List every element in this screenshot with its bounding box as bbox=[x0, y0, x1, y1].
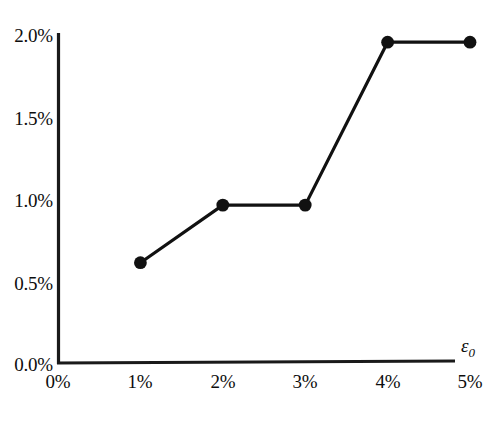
x-axis-title-subscript: 0 bbox=[469, 345, 475, 360]
x-tick-label-1: 1% bbox=[110, 372, 170, 391]
data-point-marker bbox=[381, 36, 394, 49]
data-point-marker bbox=[299, 199, 312, 212]
x-tick-label-5: 5% bbox=[440, 372, 499, 391]
plot-area bbox=[0, 0, 499, 433]
x-axis-line bbox=[57, 361, 455, 363]
chart-figure: 2.0% 1.5% 1.0% 0.5% 0.0% 0% 1% 2% 3% 4% … bbox=[0, 0, 499, 433]
data-point-marker bbox=[464, 36, 477, 49]
x-tick-label-2: 2% bbox=[193, 372, 253, 391]
x-tick-label-0: 0% bbox=[28, 372, 88, 391]
data-point-marker bbox=[216, 199, 229, 212]
data-point-marker bbox=[134, 256, 147, 269]
x-axis-title: ε0 bbox=[461, 336, 475, 362]
x-tick-label-4: 4% bbox=[358, 372, 418, 391]
data-series-line bbox=[140, 42, 470, 263]
x-axis-title-symbol: ε bbox=[461, 335, 469, 356]
x-tick-label-3: 3% bbox=[275, 372, 335, 391]
